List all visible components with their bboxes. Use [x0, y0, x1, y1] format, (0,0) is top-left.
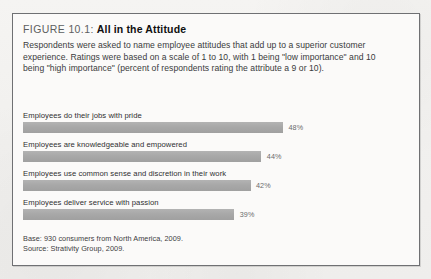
bar-category-label: Employees use common sense and discretio… [23, 169, 410, 178]
figure-footnotes: Base: 930 consumers from North America, … [23, 234, 183, 254]
bar-value-label: 39% [240, 210, 255, 219]
bar-row: Employees do their jobs with pride 48% [23, 111, 410, 140]
bar-fill [23, 180, 251, 191]
bar-category-label: Employees deliver service with passion [23, 198, 410, 207]
bar-value-label: 42% [256, 181, 271, 190]
bar-track: 39% [23, 209, 410, 220]
bar-value-label: 44% [267, 152, 282, 161]
page-title: All in the Attitude [97, 23, 186, 35]
bar-value-label: 48% [288, 123, 303, 132]
bar-fill [23, 209, 234, 220]
figure-number-label: FIGURE 10.1: [23, 23, 94, 35]
bar-category-label: Employees do their jobs with pride [23, 111, 410, 120]
figure-card: FIGURE 10.1: All in the Attitude Respond… [12, 13, 420, 266]
footnote-source: Source: Strativity Group, 2009. [23, 244, 183, 254]
bar-fill [23, 122, 283, 133]
figure-inner: FIGURE 10.1: All in the Attitude Respond… [23, 23, 410, 258]
footnote-base: Base: 930 consumers from North America, … [23, 234, 183, 244]
bar-track: 42% [23, 180, 410, 191]
figure-title: FIGURE 10.1: All in the Attitude [23, 23, 410, 36]
bar-track: 48% [23, 122, 410, 133]
figure-description: Respondents were asked to name employee … [23, 40, 391, 75]
bar-chart: Employees do their jobs with pride 48% E… [23, 111, 410, 227]
bar-row: Employees deliver service with passion 3… [23, 198, 410, 227]
bar-row: Employees are knowledgeable and empowere… [23, 140, 410, 169]
bar-category-label: Employees are knowledgeable and empowere… [23, 140, 410, 149]
bar-row: Employees use common sense and discretio… [23, 169, 410, 198]
bar-track: 44% [23, 151, 410, 162]
bar-fill [23, 151, 261, 162]
